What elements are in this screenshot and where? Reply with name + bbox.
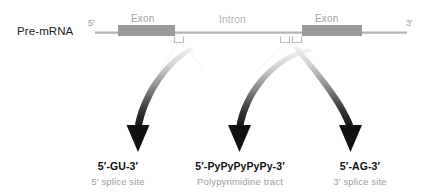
exon-left-label: Exon	[131, 14, 155, 24]
site-three-prime-splice-site: 5′-AG-3′ 3′ splice site	[300, 161, 420, 187]
site-name: 5′ splice site	[58, 177, 178, 187]
site-five-prime-splice-site: 5′-GU-3′ 5′ splice site	[58, 161, 178, 187]
pre-mrna-backbone	[95, 32, 407, 34]
pre-mrna-splice-diagram: Pre-mRNA 5′ 3′ Exon Intron Exon 5′-GU-3′…	[0, 0, 441, 193]
site-sequence: 5′-AG-3′	[300, 161, 420, 173]
site-polypyrimidine-tract: 5′-PyPyPyPyPy-3′ Polypyrimidine tract	[170, 161, 310, 187]
intron-label: Intron	[219, 15, 246, 25]
bracket-polypyrimidine-tract	[281, 37, 290, 43]
exon-right-label: Exon	[315, 14, 339, 24]
site-sequence: 5′-PyPyPyPyPy-3′	[170, 161, 310, 173]
bracket-five-prime-splice-site	[175, 37, 184, 43]
exon-right-box	[302, 25, 362, 36]
site-sequence: 5′-GU-3′	[58, 161, 178, 173]
five-prime-end-label: 5′	[88, 19, 95, 28]
arrow-to-polypyrimidine-tract	[228, 48, 313, 152]
exon-left-box	[118, 25, 175, 36]
leader-lines	[160, 44, 318, 70]
three-prime-end-label: 3′	[406, 19, 413, 28]
site-name: Polypyrimidine tract	[170, 177, 310, 187]
arrow-to-five-prime-splice-site	[127, 47, 194, 152]
site-name: 3′ splice site	[300, 177, 420, 187]
bracket-three-prime-splice-site	[293, 37, 302, 43]
pre-mrna-label: Pre-mRNA	[17, 26, 73, 38]
arrow-to-three-prime-splice-site	[293, 46, 362, 153]
